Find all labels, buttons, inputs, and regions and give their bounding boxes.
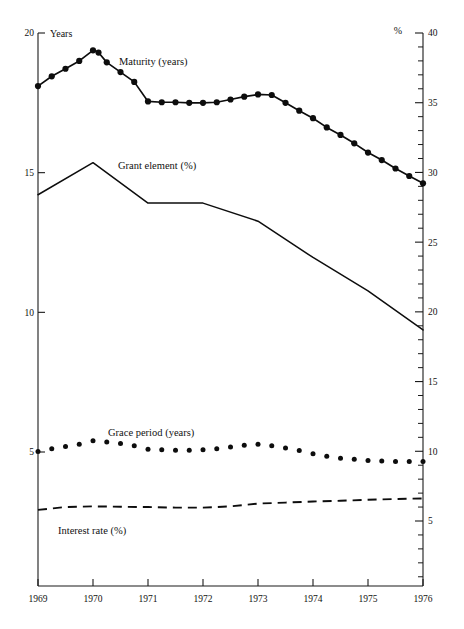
right-axis-tick-label: 30 [428, 168, 438, 178]
series-label-grace-period-years: Grace period (years) [108, 427, 195, 439]
data-point-marker [256, 442, 261, 447]
series-line-interest-rate [38, 498, 423, 509]
x-axis-tick-label: 1975 [359, 594, 378, 604]
data-point-marker [311, 451, 316, 456]
x-axis-tick-label: 1970 [84, 594, 103, 604]
data-point-marker [173, 448, 178, 453]
x-axis-tick-label: 1971 [139, 594, 158, 604]
x-axis-tick-labels: 19691970197119721973197419751976 [29, 594, 433, 604]
series-grant-element [38, 163, 423, 330]
x-axis-tick-label: 1972 [194, 594, 213, 604]
data-point-marker [421, 459, 426, 464]
data-point-marker [228, 444, 233, 449]
chart-container: 2015105 403530252015105 1969197019711972… [0, 0, 464, 629]
data-point-marker [62, 66, 68, 72]
data-point-marker [352, 457, 357, 462]
data-point-marker [282, 100, 288, 106]
data-point-marker [351, 140, 357, 146]
data-point-marker [187, 448, 192, 453]
series-maturity-years [35, 47, 426, 186]
data-point-marker [227, 96, 233, 102]
data-point-marker [337, 132, 343, 138]
series-annotations: Maturity (years)Grant element (%)Grace p… [58, 56, 197, 537]
data-point-marker [379, 458, 384, 463]
right-axis-tick-label: 15 [428, 377, 438, 387]
x-axis-tick-label: 1976 [414, 594, 433, 604]
left-axis-tick-label: 15 [25, 168, 35, 178]
data-point-marker [379, 157, 385, 163]
data-point-marker [159, 99, 165, 105]
data-point-marker [76, 58, 82, 64]
data-point-marker [91, 438, 96, 443]
data-point-marker [338, 456, 343, 461]
data-point-marker [95, 49, 101, 55]
data-point-marker [201, 447, 206, 452]
right-axis-tick-label: 35 [428, 98, 438, 108]
data-point-marker [145, 98, 151, 104]
axis-unit-labels: Years% [50, 25, 402, 39]
series-line-grant-element [38, 163, 423, 330]
data-point-marker [365, 149, 371, 155]
data-point-marker [104, 59, 110, 65]
data-point-marker [159, 447, 164, 452]
right-axis-unit-label: % [394, 25, 402, 36]
data-point-marker [393, 459, 398, 464]
data-point-marker [117, 69, 123, 75]
right-axis-tick-label: 5 [428, 516, 433, 526]
chart-axes [38, 33, 423, 586]
data-point-marker [392, 165, 398, 171]
right-axis-tick-label: 20 [428, 307, 438, 317]
right-axis-tick-label: 40 [428, 28, 438, 38]
series-line-maturity [38, 50, 423, 183]
line-chart-figure: 2015105 403530252015105 1969197019711972… [0, 0, 464, 629]
chart-series-group [35, 47, 426, 510]
data-point-marker [104, 439, 109, 444]
data-point-marker [241, 94, 247, 100]
x-axis-tick-label: 1973 [249, 594, 268, 604]
data-point-marker [242, 443, 247, 448]
right-axis-tick-label: 10 [428, 447, 438, 457]
right-axis-tick-label: 25 [428, 238, 438, 248]
data-point-marker [214, 99, 220, 105]
right-axis-tick-labels: 403530252015105 [428, 28, 438, 526]
series-label-grant-element: Grant element (%) [118, 160, 197, 172]
left-axis-tick-labels: 2015105 [25, 28, 35, 457]
data-point-marker [255, 91, 261, 97]
data-point-marker [269, 443, 274, 448]
data-point-marker [406, 173, 412, 179]
left-axis-tick-label: 5 [29, 447, 34, 457]
data-point-marker [36, 449, 41, 454]
data-point-marker [132, 443, 137, 448]
left-axis-tick-label: 20 [25, 28, 35, 38]
data-point-marker [49, 73, 55, 79]
x-axis-tick-label: 1974 [304, 594, 323, 604]
series-label-interest-rate: Interest rate (%) [58, 525, 127, 537]
data-point-marker [49, 446, 54, 451]
data-point-marker [35, 83, 41, 89]
data-point-marker [200, 100, 206, 106]
data-point-marker [63, 444, 68, 449]
series-label-maturity-years: Maturity (years) [119, 56, 188, 68]
data-point-marker [77, 442, 82, 447]
data-point-marker [214, 446, 219, 451]
data-point-marker [90, 47, 96, 53]
data-point-marker [366, 458, 371, 463]
data-point-marker [118, 441, 123, 446]
left-axis-tick-label: 10 [25, 308, 35, 318]
x-axis-tick-label: 1969 [29, 594, 48, 604]
data-point-marker [324, 124, 330, 130]
data-point-marker [297, 448, 302, 453]
data-point-marker [269, 92, 275, 98]
data-point-marker [283, 446, 288, 451]
series-grace-period-years [36, 438, 426, 464]
data-point-marker [324, 454, 329, 459]
data-point-marker [172, 99, 178, 105]
data-point-marker [407, 459, 412, 464]
series-interest-rate [38, 498, 423, 509]
data-point-marker [296, 108, 302, 114]
data-point-marker [146, 447, 151, 452]
data-point-marker [186, 100, 192, 106]
data-point-marker [310, 115, 316, 121]
data-point-marker [420, 180, 426, 186]
data-point-marker [131, 79, 137, 85]
